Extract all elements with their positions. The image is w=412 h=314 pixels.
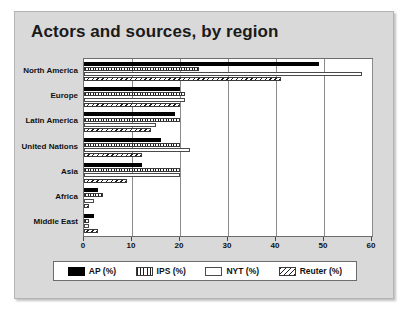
bar-solid-black[interactable]: [84, 163, 142, 167]
bar-vertical-stripes[interactable]: [84, 118, 180, 122]
plot-area: [83, 58, 373, 237]
legend-entry[interactable]: AP (%): [68, 266, 116, 276]
bar-slot: [84, 118, 372, 122]
white-empty-swatch: [205, 267, 222, 276]
bar-white-empty[interactable]: [84, 72, 362, 76]
bar-slot: [84, 72, 372, 76]
x-axis-tick-label: 10: [127, 241, 136, 250]
bar-slot: [84, 92, 372, 96]
legend-label: Reuter (%): [300, 266, 343, 276]
bar-vertical-stripes[interactable]: [84, 193, 103, 197]
bar-diagonal-hatch[interactable]: [84, 153, 142, 157]
bar-slot: [84, 123, 372, 127]
solid-black-swatch: [68, 267, 85, 276]
bar-diagonal-hatch[interactable]: [84, 77, 281, 81]
x-axis-tick-label: 0: [81, 241, 85, 250]
diagonal-hatch-swatch: [279, 267, 296, 276]
x-axis-tick-label: 40: [271, 241, 280, 250]
x-axis-tick-label: 60: [367, 241, 376, 250]
bar-slot: [84, 193, 372, 197]
bar-solid-black[interactable]: [84, 112, 175, 116]
legend-label: IPS (%): [157, 266, 186, 276]
bar-diagonal-hatch[interactable]: [84, 179, 127, 183]
bar-diagonal-hatch[interactable]: [84, 128, 151, 132]
legend-entry[interactable]: IPS (%): [136, 266, 186, 276]
bar-diagonal-hatch[interactable]: [84, 103, 180, 107]
bar-slot: [84, 67, 372, 71]
bar-diagonal-hatch[interactable]: [84, 229, 98, 233]
y-axis-category-labels: North AmericaEuropeLatin AmericaUnited N…: [15, 58, 78, 237]
bar-slot: [84, 98, 372, 102]
legend-label: AP (%): [89, 266, 116, 276]
bar-group: [84, 59, 372, 84]
bar-slot: [84, 103, 372, 107]
bar-slot: [84, 77, 372, 81]
category-label: Middle East: [34, 218, 78, 226]
bar-group: [84, 160, 372, 185]
bar-slot: [84, 163, 372, 167]
bar-vertical-stripes[interactable]: [84, 143, 180, 147]
vertical-stripes-swatch: [136, 267, 153, 276]
bar-white-empty[interactable]: [84, 98, 185, 102]
category-label: North America: [23, 67, 78, 75]
bar-solid-black[interactable]: [84, 214, 94, 218]
bar-solid-black[interactable]: [84, 138, 161, 142]
bar-slot: [84, 112, 372, 116]
bar-vertical-stripes[interactable]: [84, 168, 180, 172]
bar-slot: [84, 214, 372, 218]
bar-solid-black[interactable]: [84, 62, 319, 66]
bar-slot: [84, 224, 372, 228]
bar-group: [84, 185, 372, 210]
category-label: Europe: [50, 92, 78, 100]
bar-group: [84, 110, 372, 135]
bar-diagonal-hatch[interactable]: [84, 204, 89, 208]
chart-figure: Actors and sources, by region North Amer…: [14, 11, 394, 299]
bar-white-empty[interactable]: [84, 224, 89, 228]
legend-entry[interactable]: Reuter (%): [279, 266, 343, 276]
category-label: Africa: [55, 193, 78, 201]
bar-slot: [84, 148, 372, 152]
bar-white-empty[interactable]: [84, 173, 180, 177]
category-label: Asia: [61, 168, 78, 176]
x-axis-tick-label: 50: [319, 241, 328, 250]
x-axis-tick-label: 30: [223, 241, 232, 250]
bar-slot: [84, 219, 372, 223]
bar-vertical-stripes[interactable]: [84, 67, 199, 71]
bar-slot: [84, 153, 372, 157]
gridline: [372, 59, 373, 236]
bar-white-empty[interactable]: [84, 148, 190, 152]
category-label: Latin America: [25, 117, 78, 125]
bar-group: [84, 211, 372, 236]
x-axis-tick-label: 20: [175, 241, 184, 250]
bar-slot: [84, 229, 372, 233]
bar-slot: [84, 173, 372, 177]
legend-entry[interactable]: NYT (%): [205, 266, 259, 276]
bar-slot: [84, 143, 372, 147]
chart-legend: AP (%)IPS (%)NYT (%)Reuter (%): [53, 261, 357, 281]
legend-label: NYT (%): [226, 266, 259, 276]
bar-slot: [84, 179, 372, 183]
bar-slot: [84, 128, 372, 132]
bar-white-empty[interactable]: [84, 123, 156, 127]
chart-title: Actors and sources, by region: [31, 22, 279, 42]
bar-slot: [84, 199, 372, 203]
bar-group: [84, 135, 372, 160]
bar-groups: [84, 59, 372, 236]
bar-slot: [84, 204, 372, 208]
bar-slot: [84, 62, 372, 66]
bar-white-empty[interactable]: [84, 199, 94, 203]
bar-solid-black[interactable]: [84, 87, 180, 91]
bar-slot: [84, 138, 372, 142]
category-label: United Nations: [22, 143, 78, 151]
bar-slot: [84, 188, 372, 192]
bar-solid-black[interactable]: [84, 188, 98, 192]
bar-slot: [84, 168, 372, 172]
bar-vertical-stripes[interactable]: [84, 219, 89, 223]
bar-slot: [84, 87, 372, 91]
bar-vertical-stripes[interactable]: [84, 92, 185, 96]
x-axis-tick-labels: 0102030405060: [83, 241, 373, 253]
bar-group: [84, 84, 372, 109]
